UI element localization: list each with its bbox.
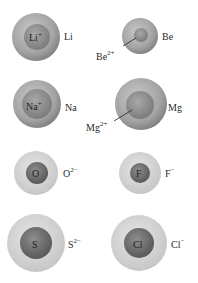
na-atom-label: Na: [65, 102, 77, 113]
o-ion-label: O2−: [63, 166, 78, 179]
cl-pair: Cl Cl−: [111, 215, 184, 271]
mg-ion-label: Mg2+: [86, 120, 107, 133]
mg-ion-sphere: [126, 91, 154, 119]
cl-atom-label: Cl: [133, 239, 143, 250]
cl-ion-label: Cl−: [171, 237, 184, 250]
li-pair: Li+ Li: [12, 13, 73, 61]
li-atom-label: Li: [64, 31, 73, 42]
be-atom-label: Be: [162, 31, 174, 42]
be-ion-sphere: [134, 28, 148, 42]
s-ion-label: S2−: [68, 237, 81, 250]
f-atom-label: F: [136, 168, 142, 179]
be-ion-label: Be2+: [96, 49, 115, 62]
mg-pair: Mg Mg2+: [86, 78, 182, 133]
f-ion-label: F−: [165, 166, 175, 179]
na-pair: Na+ Na: [13, 80, 77, 128]
o-atom-label: O: [32, 168, 39, 179]
be-pair: Be Be2+: [96, 18, 174, 62]
s-pair: S S2−: [7, 214, 81, 272]
o-pair: O O2−: [14, 151, 78, 195]
ionic-radii-diagram: Li+ Li Be Be2+ Na+ Na Mg Mg2+ O O2− F F−: [0, 0, 198, 283]
f-pair: F F−: [119, 152, 175, 194]
mg-atom-label: Mg: [168, 102, 182, 113]
s-atom-label: S: [32, 239, 38, 250]
